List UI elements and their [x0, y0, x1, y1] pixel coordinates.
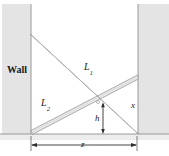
ladder-1-label-base: L [84, 61, 90, 72]
ladder-2-label: L2 [41, 98, 50, 111]
z-arrow-head-left [31, 143, 37, 147]
ladder-geometry-figure: Wall L1 L2 x h z [0, 0, 169, 156]
ladder-1-label: L1 [84, 62, 93, 75]
height-x-label: x [131, 101, 135, 110]
height-h-label: h [95, 114, 100, 123]
height-h-dimension [101, 102, 105, 134]
h-arrow-head-down [101, 129, 105, 134]
ladder-2-label-subscript: 2 [47, 105, 50, 112]
right-wall-shape [138, 4, 169, 135]
wall-label: Wall [7, 65, 27, 75]
z-arrow-head-right [131, 143, 137, 147]
ladder-2-label-base: L [41, 97, 47, 108]
span-z-label: z [81, 140, 85, 149]
crossing-point-marker [96, 100, 99, 103]
ladder-1-label-subscript: 1 [90, 69, 93, 76]
figure-canvas [0, 0, 169, 156]
